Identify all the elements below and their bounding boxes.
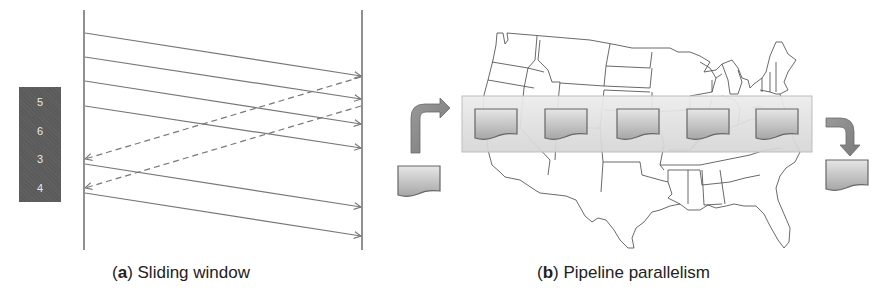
packet-arrow-6: [85, 164, 361, 207]
caption-sliding-window: (a) Sliding window: [112, 263, 250, 283]
output-document-icon: [826, 160, 868, 190]
caption-text-b: Pipeline parallelism: [559, 263, 710, 282]
window-slot-label: 6: [37, 125, 43, 137]
window-slot-5: 5: [19, 87, 61, 116]
window-slot-label: 4: [37, 182, 43, 194]
pipeline-diagram: [398, 33, 868, 248]
packet-arrow-3: [85, 106, 361, 148]
figure-canvas: [0, 0, 895, 308]
sliding-window-diagram: [84, 10, 362, 250]
caption-letter-a: a: [118, 263, 127, 282]
caption-pipeline-parallelism: (b) Pipeline parallelism: [537, 263, 710, 283]
curved-arrow-right-icon: [411, 98, 450, 153]
window-slot-4: 4: [19, 173, 61, 202]
packet-arrow-0: [85, 33, 361, 76]
curved-arrow-down-icon: [826, 118, 860, 156]
packet-arrow-1: [85, 57, 361, 99]
window-slot-3: 3: [19, 145, 61, 173]
window-slot-label: 5: [37, 96, 43, 108]
message-arrows: [85, 33, 361, 236]
window-slot-label: 3: [37, 153, 43, 165]
caption-text-a: Sliding window: [133, 263, 250, 282]
caption-letter-b: b: [543, 263, 553, 282]
input-document-icon: [398, 166, 440, 196]
packet-arrow-7: [85, 193, 361, 236]
window-slot-6: 6: [19, 116, 61, 145]
